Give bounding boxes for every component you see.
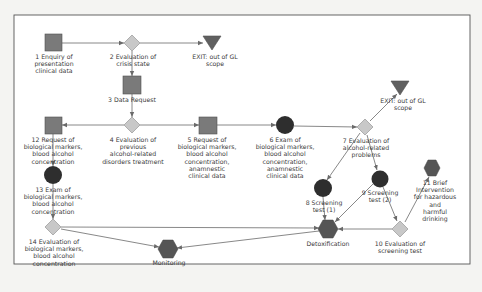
node-10-label: 10 Evaluation of screening test: [375, 240, 425, 254]
node-13-circle[interactable]: [44, 166, 62, 184]
node-3-square[interactable]: [123, 76, 141, 94]
node-7-label: 7 Evaluation of alcohol-related problems: [343, 137, 389, 159]
node-1-square[interactable]: [45, 34, 62, 51]
monitoring-label: Monitoring: [152, 259, 185, 266]
node-1-label: 1 Enquiry of presentation clinical data: [34, 53, 73, 75]
node-3-label: 3 Data Request: [108, 96, 156, 103]
exit-1-label: EXIT: out of GL scope: [192, 53, 237, 67]
node-14-label: 14 Evaluation of biological markers, blo…: [25, 238, 84, 267]
node-8-label: 8 Screening test (1): [306, 199, 343, 213]
node-2-label: 2 Evaluation of crisis state: [110, 53, 156, 67]
node-6-label: 6 Exam of biological markers, blood alco…: [256, 136, 315, 179]
node-9-circle[interactable]: [372, 171, 389, 188]
node-8-circle[interactable]: [314, 179, 332, 197]
node-11-label: 11 Brief Intervention for hazardous and …: [412, 179, 459, 222]
node-6-circle[interactable]: [276, 116, 294, 134]
node-5-square[interactable]: [199, 117, 217, 134]
detox-label: Detoxification: [307, 240, 350, 247]
flowchart-diagram: 1 Enquiry of presentation clinical data …: [0, 0, 482, 292]
node-4-label: 4 Evaluation of previous alcohol-related…: [102, 136, 164, 165]
node-12-label: 12 Request of biological markers, blood …: [24, 136, 83, 165]
node-5-label: 5 Request of biological markers, blood a…: [178, 136, 237, 179]
node-9-label: 9 Screening test (2): [362, 189, 399, 203]
exit-2-label: EXIT: out of GL scope: [380, 97, 425, 111]
node-12-square[interactable]: [45, 117, 62, 134]
node-13-label: 13 Exam of biological markers, blood alc…: [24, 186, 83, 215]
